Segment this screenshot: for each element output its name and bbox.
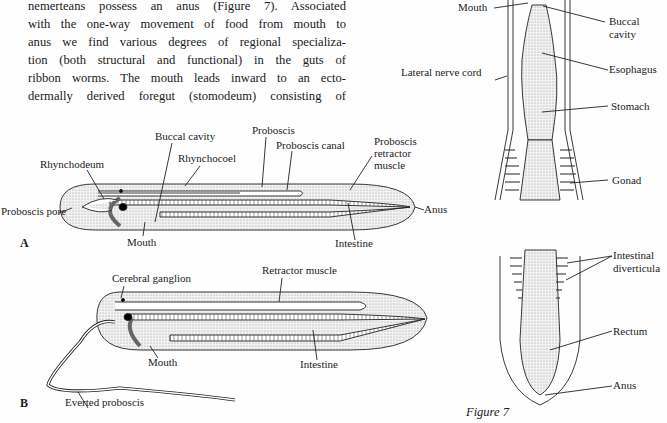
label-buccal-cavity-a: Buccal cavity (155, 130, 215, 142)
panel-label-a: A (20, 236, 29, 251)
label-rhynchocoel: Rhynchocoel (178, 152, 236, 164)
label-rhynchodeum: Rhynchodeum (40, 158, 104, 170)
panel-label-b: B (20, 396, 28, 411)
label-cerebral-ganglion: Cerebral ganglion (112, 272, 191, 284)
label-mouth-a: Mouth (127, 236, 156, 248)
label-proboscis-retractor-muscle: Proboscis retractor muscle (374, 135, 417, 171)
label-stomach: Stomach (611, 100, 650, 112)
gut-hindgut-drawing (500, 250, 612, 405)
label-rectum: Rectum (613, 325, 647, 337)
label-intestine-a: Intestine (335, 237, 373, 249)
gut-foregut-drawing (494, 0, 608, 200)
label-anus-right: Anus (613, 379, 636, 391)
label-mouth-b: Mouth (148, 356, 177, 368)
label-proboscis-canal: Proboscis canal (276, 139, 345, 151)
figure-caption: Figure 7 (466, 405, 509, 420)
label-everted-proboscis: Everted proboscis (65, 396, 144, 408)
worm-a-drawing (59, 137, 424, 240)
label-buccal-cavity-right: Buccal cavity (609, 15, 640, 41)
label-retractor-muscle: Retractor muscle (262, 264, 337, 276)
label-gonad: Gonad (612, 174, 641, 186)
label-proboscis-a: Proboscis (252, 124, 295, 136)
label-esophagus: Esophagus (609, 63, 657, 75)
worm-b-drawing (48, 278, 427, 408)
label-mouth-right: Mouth (458, 1, 487, 13)
label-intestine-b: Intestine (300, 358, 338, 370)
label-anus-a: Anus (424, 203, 447, 215)
label-intestinal-diverticula: Intestinal diverticula (613, 249, 660, 275)
label-proboscis-pore: Proboscis pore (1, 205, 66, 217)
label-lateral-nerve-cord: Lateral nerve cord (401, 66, 482, 78)
